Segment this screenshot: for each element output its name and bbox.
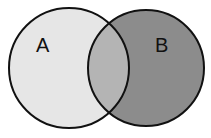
venn-svg: A B [0, 0, 211, 138]
venn-diagram: A B [0, 0, 211, 138]
set-b-label: B [155, 34, 168, 56]
set-a-label: A [36, 34, 50, 56]
